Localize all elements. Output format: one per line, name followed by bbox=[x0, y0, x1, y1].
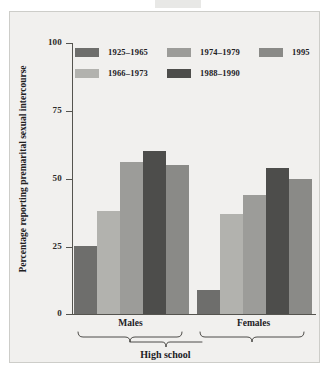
legend-item-2: 1995 bbox=[259, 45, 310, 59]
legend-swatch-4 bbox=[167, 69, 191, 78]
legend-row-1: 1925–1965 1974–1979 1995 bbox=[75, 45, 315, 61]
y-tick-0: 0 bbox=[66, 314, 72, 315]
legend-label-2: 1995 bbox=[292, 47, 310, 57]
bar-males-1988-1990 bbox=[143, 151, 166, 314]
legend-item-4: 1988–1990 bbox=[167, 66, 240, 80]
brace-highschool bbox=[130, 342, 202, 347]
bar-females-1988-1990 bbox=[266, 168, 289, 314]
brace-males bbox=[78, 332, 182, 342]
bar-males-1925-1965 bbox=[74, 246, 97, 314]
bar-males-1995 bbox=[166, 165, 189, 314]
legend-swatch-3 bbox=[75, 69, 99, 78]
legend-label-1: 1974–1979 bbox=[200, 47, 240, 57]
legend-swatch-0 bbox=[75, 48, 99, 57]
bar-females-1966-1973 bbox=[220, 214, 243, 314]
legend-row-2: 1966–1973 1988–1990 bbox=[75, 66, 315, 82]
bar-males-1966-1973 bbox=[97, 211, 120, 314]
legend-swatch-2 bbox=[259, 48, 283, 57]
bar-females-1995 bbox=[289, 179, 312, 315]
legend-item-3: 1966–1973 bbox=[75, 66, 148, 80]
legend-swatch-1 bbox=[167, 48, 191, 57]
figure-root: Percentage reporting premarital sexual i… bbox=[0, 0, 331, 373]
scan-artifact-notch bbox=[155, 0, 201, 8]
bar-males-1974-1979 bbox=[120, 162, 143, 314]
group-label-males: Males bbox=[73, 318, 188, 328]
legend-label-0: 1925–1965 bbox=[108, 47, 148, 57]
bar-females-1974-1979 bbox=[243, 195, 266, 314]
chart-plate: Percentage reporting premarital sexual i… bbox=[9, 11, 320, 363]
legend-item-1: 1974–1979 bbox=[167, 45, 240, 59]
legend-label-4: 1988–1990 bbox=[200, 68, 240, 78]
legend-label-3: 1966–1973 bbox=[108, 68, 148, 78]
bar-females-1925-1965 bbox=[197, 290, 220, 314]
legend-item-0: 1925–1965 bbox=[75, 45, 148, 59]
brace-females bbox=[200, 332, 304, 342]
x-axis-group-label: High school bbox=[10, 349, 321, 360]
group-label-females: Females bbox=[196, 318, 311, 328]
x-axis-line bbox=[72, 314, 316, 315]
